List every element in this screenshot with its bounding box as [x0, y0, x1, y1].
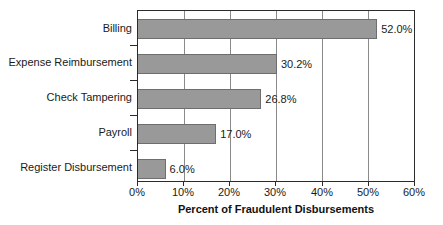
- x-tick-label-50: 50%: [357, 187, 379, 198]
- bar-row-check-tampering: 26.8%: [138, 89, 414, 109]
- bar-row-expense-reimbursement: 30.2%: [138, 54, 414, 74]
- x-tick-label-30: 30%: [264, 187, 286, 198]
- category-label-check-tampering: Check Tampering: [47, 92, 132, 103]
- bar-check-tampering: [138, 89, 261, 109]
- bar-payroll: [138, 124, 216, 144]
- bar-billing: [138, 19, 377, 39]
- bar-value-register-disbursement: 6.0%: [170, 164, 195, 175]
- x-tick-label-20: 20%: [218, 187, 240, 198]
- x-tick-label-40: 40%: [311, 187, 333, 198]
- x-tick-label-10: 10%: [172, 187, 194, 198]
- bar-value-expense-reimbursement: 30.2%: [281, 59, 312, 70]
- category-axis-labels: Billing Expense Reimbursement Check Tamp…: [0, 0, 132, 225]
- category-label-payroll: Payroll: [98, 127, 132, 138]
- bar-value-billing: 52.0%: [381, 24, 412, 35]
- category-label-expense-reimbursement: Expense Reimbursement: [8, 57, 132, 68]
- bar-row-payroll: 17.0%: [138, 124, 414, 144]
- plot-area: 52.0% 30.2% 26.8% 17.0% 6.0%: [137, 10, 415, 182]
- bar-register-disbursement: [138, 159, 166, 179]
- x-tick-label-0: 0%: [129, 187, 145, 198]
- bar-value-payroll: 17.0%: [220, 129, 251, 140]
- bar-value-check-tampering: 26.8%: [265, 94, 296, 105]
- x-tick-label-60: 60%: [403, 187, 425, 198]
- x-axis-title: Percent of Fraudulent Disbursements: [137, 203, 415, 215]
- category-label-register-disbursement: Register Disbursement: [20, 162, 132, 173]
- bar-row-billing: 52.0%: [138, 19, 414, 39]
- bar-chart: Billing Expense Reimbursement Check Tamp…: [0, 0, 443, 225]
- category-label-billing: Billing: [103, 23, 132, 34]
- bar-expense-reimbursement: [138, 54, 277, 74]
- bar-row-register-disbursement: 6.0%: [138, 159, 414, 179]
